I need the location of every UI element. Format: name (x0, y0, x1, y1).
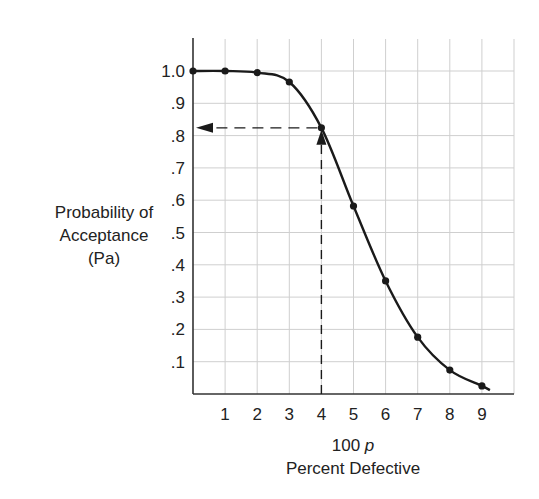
y-tick-label: 1.0 (161, 62, 185, 81)
oc-curve-chart: .1.2.3.4.5.6.7.8.91.0 123456789 Probabil… (0, 0, 539, 499)
y-tick-label: .1 (171, 353, 185, 372)
x-tick-label: 7 (413, 405, 422, 424)
arrow-left-icon (196, 123, 213, 133)
x-tick-label: 6 (381, 405, 390, 424)
x-tick-label: 8 (445, 405, 454, 424)
y-tick-label: .9 (171, 94, 185, 113)
x-tick-label: 9 (477, 405, 486, 424)
x-tick-label: 2 (252, 405, 261, 424)
x-tick-label: 5 (349, 405, 358, 424)
y-axis-label-line-3: (Pa) (88, 249, 120, 268)
data-point-marker (286, 78, 293, 85)
y-tick-label: .6 (171, 191, 185, 210)
y-tick-labels: .1.2.3.4.5.6.7.8.91.0 (161, 62, 185, 372)
oc-curve-series (189, 67, 490, 390)
y-tick-label: .7 (171, 159, 185, 178)
data-point-marker (189, 67, 196, 74)
x-tick-labels: 123456789 (220, 405, 486, 424)
oc-curve-line (193, 71, 490, 390)
x-axis-label: 100 p Percent Defective (286, 436, 420, 478)
data-point-marker (254, 69, 261, 76)
x-tick-label: 3 (285, 405, 294, 424)
y-axis-label: Probability of Acceptance (Pa) (55, 203, 154, 268)
x-axis-label-sub: Percent Defective (286, 459, 420, 478)
data-point-marker (382, 277, 389, 284)
x-tick-label: 4 (317, 405, 326, 424)
x-axis-label-main: 100 p (332, 436, 375, 455)
grid-lines (193, 39, 514, 394)
y-tick-label: .5 (171, 224, 185, 243)
y-axis-label-line-1: Probability of (55, 203, 154, 222)
data-point-marker (222, 67, 229, 74)
y-tick-label: .3 (171, 288, 185, 307)
data-point-marker (414, 334, 421, 341)
data-point-marker (446, 366, 453, 373)
y-tick-label: .4 (171, 256, 185, 275)
y-axis-label-line-2: Acceptance (60, 226, 149, 245)
data-point-marker (478, 382, 485, 389)
data-point-marker (318, 124, 325, 131)
y-tick-label: .2 (171, 320, 185, 339)
data-point-marker (350, 202, 357, 209)
x-tick-label: 1 (220, 405, 229, 424)
y-tick-label: .8 (171, 127, 185, 146)
reading-annotation (196, 123, 326, 394)
